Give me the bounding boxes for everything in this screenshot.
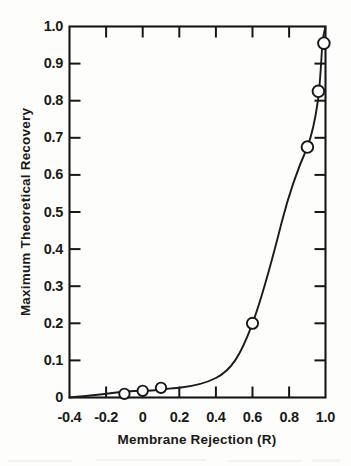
x-tick-labels: -0.4 -0.2 0 0.2 0.4 0.6 0.8 1.0 xyxy=(58,409,336,425)
y-tick-label: 0.2 xyxy=(44,315,63,331)
data-point xyxy=(156,383,166,393)
y-tick-label: 0.4 xyxy=(44,241,63,257)
data-point xyxy=(302,141,314,153)
y-tick-label: 0.8 xyxy=(44,92,63,108)
y-axis-ticks xyxy=(70,64,81,361)
y-tick-label: 0 xyxy=(55,389,63,405)
data-curve xyxy=(70,27,326,398)
data-point xyxy=(313,86,325,98)
data-point-markers xyxy=(119,37,330,399)
y-tick-label: 0.7 xyxy=(44,129,63,145)
data-point xyxy=(138,386,148,396)
data-point xyxy=(119,389,129,399)
plot-frame xyxy=(70,27,326,398)
data-point xyxy=(318,37,330,49)
chart-figure: 1.0 0.9 0.8 0.7 0.6 0.5 0.4 0.3 0.2 0.1 … xyxy=(0,0,351,466)
x-axis-ticks xyxy=(106,387,289,398)
y-axis-title: Maximum Theoretical Recovery xyxy=(18,108,33,316)
y-tick-label: 0.9 xyxy=(44,55,63,71)
y-tick-label: 0.5 xyxy=(44,204,63,220)
x-tick-label: -0.2 xyxy=(94,409,118,425)
recovery-vs-rejection-chart: 1.0 0.9 0.8 0.7 0.6 0.5 0.4 0.3 0.2 0.1 … xyxy=(0,0,351,466)
x-tick-label: 1.0 xyxy=(316,409,335,425)
data-point xyxy=(247,318,258,329)
y-tick-label: 1.0 xyxy=(44,18,63,34)
y-tick-label: 0.3 xyxy=(44,278,63,294)
x-tick-label: 0.6 xyxy=(243,409,262,425)
y-tick-label: 0.1 xyxy=(44,352,63,368)
y-tick-label: 0.6 xyxy=(44,166,63,182)
x-tick-label: -0.4 xyxy=(58,409,82,425)
x-tick-label: 0.4 xyxy=(206,409,225,425)
x-tick-label: 0.2 xyxy=(170,409,189,425)
x-tick-label: 0 xyxy=(139,409,147,425)
y-tick-labels: 1.0 0.9 0.8 0.7 0.6 0.5 0.4 0.3 0.2 0.1 … xyxy=(44,18,64,405)
x-axis-ticks-top xyxy=(106,27,289,38)
x-tick-label: 0.8 xyxy=(279,409,298,425)
x-axis-title: Membrane Rejection (R) xyxy=(118,432,277,447)
